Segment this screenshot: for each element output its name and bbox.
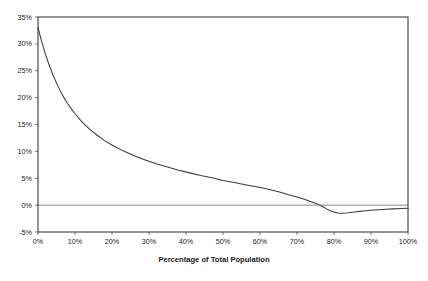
y-tick-label: 35% — [18, 13, 33, 22]
x-axis-title: Percentage of Total Population — [158, 255, 270, 264]
x-tick-label: 20% — [105, 237, 120, 246]
x-tick-label: 30% — [142, 237, 157, 246]
line-chart: -5%0%5%10%15%20%25%30%35% 0%10%20%30%40%… — [0, 0, 428, 281]
y-tick-label: 5% — [22, 174, 33, 183]
x-tick-label: 90% — [364, 237, 379, 246]
chart-container: -5%0%5%10%15%20%25%30%35% 0%10%20%30%40%… — [0, 0, 428, 281]
x-tick-label: 70% — [290, 237, 305, 246]
y-tick-label: 20% — [18, 93, 33, 102]
y-tick-label: 30% — [18, 39, 33, 48]
y-tick-label: 15% — [18, 120, 33, 129]
y-tick-label: 10% — [18, 147, 33, 156]
x-tick-label: 100% — [399, 237, 418, 246]
x-tick-label: 80% — [327, 237, 342, 246]
y-tick-label: -5% — [19, 228, 32, 237]
x-tick-label: 40% — [179, 237, 194, 246]
x-tick-label: 60% — [253, 237, 268, 246]
x-tick-label: 10% — [68, 237, 83, 246]
x-tick-label: 50% — [216, 237, 231, 246]
x-tick-label: 0% — [33, 237, 44, 246]
y-tick-label: 25% — [18, 66, 33, 75]
y-tick-label: 0% — [22, 201, 33, 210]
